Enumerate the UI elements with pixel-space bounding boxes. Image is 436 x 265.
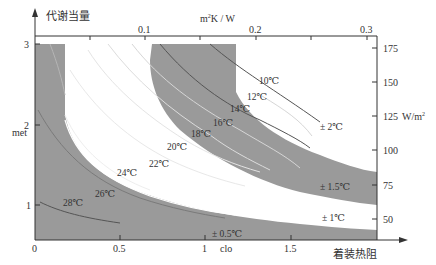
x-axis-arrow-icon [399, 237, 408, 243]
band-label: ± 0.5℃ [212, 229, 242, 239]
y-axis-arrow-icon [32, 8, 38, 17]
isotherm-label: 10℃ [259, 76, 280, 86]
isotherm-label: 16℃ [213, 118, 234, 128]
left-tick: 1 [26, 200, 31, 211]
bottom-tick: 1 [202, 243, 207, 254]
right-tick: 50 [383, 214, 393, 225]
top-tick: 0.3 [360, 24, 373, 35]
isotherm-label: 28℃ [63, 198, 84, 208]
left-tick: 3 [24, 39, 29, 50]
top-axis-unit: m2K / W [200, 13, 236, 24]
isotherm-label: 20℃ [167, 142, 188, 152]
right-tick: 100 [383, 145, 398, 156]
right-tick: 75 [383, 180, 393, 191]
top-tick: 0.1 [138, 24, 151, 35]
isotherm-label: 22℃ [149, 159, 170, 169]
left-tick: 2 [24, 120, 29, 131]
isotherm-label: 18℃ [191, 129, 212, 139]
bottom-tick: 1.5 [284, 243, 297, 254]
right-tick: 125 [383, 111, 398, 122]
band-label: ± 2℃ [320, 122, 343, 132]
bottom-axis-title: 着装热阻 [333, 247, 377, 261]
band-label: ± 1℃ [322, 213, 345, 223]
bottom-axis-unit: clo [220, 243, 232, 254]
left-axis-title: 代谢当量 [46, 9, 90, 23]
right-axis-unit: W/m2 [402, 111, 425, 122]
right-tick: 150 [383, 77, 398, 88]
bottom-tick: 0 [32, 243, 37, 254]
right-tick: 175 [383, 43, 398, 54]
comfort-chart: 代谢当量 met 着装热阻 clo m2K / W W/m2 3 2 1 175… [0, 0, 436, 265]
isotherm-label: 12℃ [247, 92, 268, 102]
band-label: ± 1.5℃ [320, 182, 350, 192]
bottom-tick: 0.5 [113, 243, 126, 254]
isotherm-label: 26℃ [95, 189, 116, 199]
top-tick: 0.2 [249, 24, 262, 35]
isotherm-label: 24℃ [117, 168, 138, 178]
isotherm-label: 14℃ [230, 104, 251, 114]
